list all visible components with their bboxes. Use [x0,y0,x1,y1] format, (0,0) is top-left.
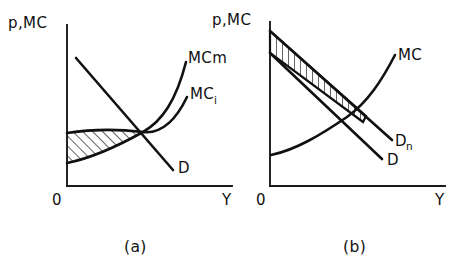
curve-label-mc: MC [398,46,422,64]
panel-a: p,MC 0 Y MCm MC i D (a) [8,14,232,256]
panel-b-x-axis-label: Y [434,191,445,209]
panel-b-caption: (b) [343,238,366,256]
curve-label-demand-n: D n [395,132,413,152]
panel-a-x-axis-label: Y [221,191,232,209]
curve-label-demand-b: D [387,151,399,169]
economics-figure: p,MC 0 Y MCm MC i D (a) [0,0,454,264]
curve-label-demand-n-subscript: n [406,140,413,152]
panel-a-shaded-region [60,120,155,175]
curve-demand-b [270,53,382,159]
panel-b: p,MC 0 Y MC D n D (b) [212,11,445,256]
panel-a-y-axis-label: p,MC [8,14,47,32]
curve-label-demand-a: D [178,159,190,177]
curve-label-mci: MC i [190,85,217,106]
figure-canvas: p,MC 0 Y MCm MC i D (a) [0,0,454,264]
panel-a-caption: (a) [124,238,147,256]
curve-demand-n [270,31,392,140]
curve-label-mcm: MCm [188,49,227,67]
curve-label-mci-subscript: i [214,94,217,106]
welfare-loss-hatch-fill [60,120,155,175]
curve-label-mci-base: MC [190,85,214,103]
panel-b-origin-label: 0 [256,191,266,209]
panel-a-origin-label: 0 [52,191,62,209]
panel-b-y-axis-label: p,MC [212,11,251,29]
